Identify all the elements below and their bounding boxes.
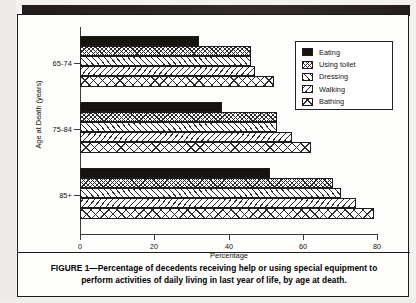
x-tick-80 (377, 234, 378, 240)
bar-85-plus-using-toilet (80, 178, 333, 188)
figure-caption-label: FIGURE 1 (51, 263, 90, 273)
legend-label-dressing: Dressing (319, 72, 348, 81)
figure-caption-body: Percentage of decedents receiving help o… (81, 263, 377, 285)
legend-label-walking: Walking (319, 85, 345, 94)
x-tick-20 (154, 234, 155, 240)
legend-label-eating: Eating (319, 48, 340, 57)
figure-caption-text: FIGURE 1—Percentage of decedents receivi… (38, 263, 390, 286)
bar-65-74-bathing (80, 76, 274, 87)
bar-65-74-dressing (80, 56, 251, 66)
bar-85-plus-bathing (80, 208, 374, 219)
legend-item-dressing: Dressing (302, 71, 392, 83)
x-tick-60 (303, 234, 304, 240)
plot-area: 65-74 75-84 85+ 0 20 40 60 80 Percentage… (18, 15, 410, 253)
bar-65-74-using-toilet (80, 46, 251, 56)
x-tick-0 (80, 234, 81, 240)
bar-85-plus-dressing (80, 188, 341, 198)
bar-85-plus-walking (80, 198, 356, 208)
legend-swatch-using-toilet (302, 61, 313, 69)
x-tick-40 (229, 234, 230, 240)
bar-65-74-walking (80, 66, 255, 76)
legend-item-using-toilet: Using toilet (302, 58, 392, 70)
legend-swatch-bathing (302, 98, 313, 106)
scan-margin-left (0, 0, 16, 303)
x-axis-label-80: 80 (373, 242, 381, 251)
legend-swatch-dressing (302, 73, 313, 81)
figure-caption: FIGURE 1—Percentage of decedents receivi… (18, 252, 410, 296)
figure-caption-dash: — (89, 263, 97, 273)
scan-margin-bottom (0, 298, 416, 303)
legend: Eating Using toilet Dressing Walking Bat… (295, 41, 393, 110)
x-axis-label-20: 20 (150, 242, 158, 251)
bar-75-84-bathing (80, 142, 311, 153)
y-axis-label-85-plus: 85+ (28, 191, 72, 200)
legend-item-walking: Walking (302, 83, 392, 95)
y-axis-title: Age at Death (years) (34, 57, 43, 173)
legend-label-using-toilet: Using toilet (319, 60, 356, 69)
legend-item-bathing: Bathing (302, 96, 392, 108)
figure-frame: 65-74 75-84 85+ 0 20 40 60 80 Percentage… (17, 14, 409, 297)
bar-65-74-eating (80, 36, 199, 46)
x-axis-label-40: 40 (225, 242, 233, 251)
legend-swatch-eating (302, 48, 313, 56)
legend-item-eating: Eating (302, 46, 392, 58)
x-axis-label-60: 60 (299, 242, 307, 251)
x-axis-label-0: 0 (78, 242, 82, 251)
figure-page: 65-74 75-84 85+ 0 20 40 60 80 Percentage… (0, 0, 416, 303)
bar-75-84-eating (80, 102, 222, 112)
bar-85-plus-eating (80, 168, 270, 178)
bar-75-84-using-toilet (80, 112, 277, 122)
legend-swatch-walking (302, 85, 313, 93)
bar-75-84-dressing (80, 122, 277, 132)
legend-label-bathing: Bathing (319, 97, 344, 106)
bar-75-84-walking (80, 132, 292, 142)
